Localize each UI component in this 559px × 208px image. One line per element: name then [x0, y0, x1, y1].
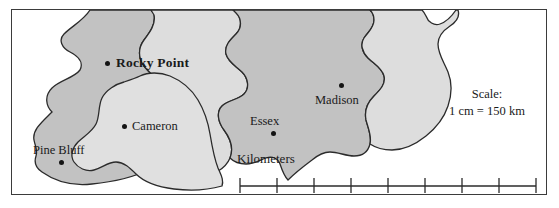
scale-note-value: 1 cm = 150 km: [431, 103, 543, 120]
city-dot-essex[interactable]: [271, 131, 276, 136]
city-dot-madison[interactable]: [339, 83, 344, 88]
city-dot-rocky-point[interactable]: [105, 61, 110, 66]
city-label-madison: Madison: [315, 94, 359, 107]
scale-note: Scale: 1 cm = 150 km: [431, 86, 543, 120]
map-frame-border: Rocky Point Cameron Pine Bluff Essex Mad…: [11, 9, 547, 195]
city-label-rocky-point: Rocky Point: [116, 56, 189, 70]
scale-note-title: Scale:: [431, 86, 543, 103]
scalebar-svg: [237, 174, 542, 195]
city-label-essex: Essex: [250, 115, 279, 128]
city-label-cameron: Cameron: [132, 120, 178, 133]
scalebar[interactable]: 0 150 300 450 600 750 900 1,050 1,200: [237, 174, 542, 195]
city-label-pine-bluff: Pine Bluff: [33, 144, 85, 157]
scalebar-units-label: Kilometers: [237, 151, 295, 167]
map-figure: Rocky Point Cameron Pine Bluff Essex Mad…: [0, 0, 559, 208]
city-dot-cameron[interactable]: [122, 124, 127, 129]
city-dot-pine-bluff[interactable]: [59, 160, 64, 165]
